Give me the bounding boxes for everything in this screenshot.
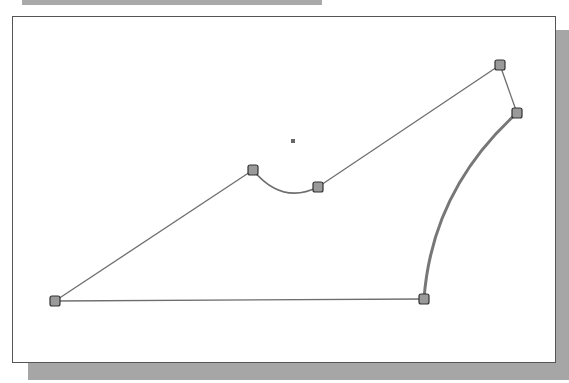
center-mark-icon xyxy=(291,139,295,143)
arc-p2-p3[interactable] xyxy=(253,170,318,193)
line-p1-p2[interactable] xyxy=(55,170,253,301)
vertex-p4[interactable] xyxy=(495,60,505,70)
line-p4-p5[interactable] xyxy=(500,65,517,113)
sketch-drawing[interactable] xyxy=(0,0,569,383)
vertex-p2[interactable] xyxy=(248,165,258,175)
line-p6-p1[interactable] xyxy=(55,299,424,301)
line-p3-p4[interactable] xyxy=(318,65,500,187)
arc-p5-p6[interactable] xyxy=(424,113,517,299)
vertex-p1[interactable] xyxy=(50,296,60,306)
vertex-p6[interactable] xyxy=(419,294,429,304)
vertex-p3[interactable] xyxy=(313,182,323,192)
vertex-p5[interactable] xyxy=(512,108,522,118)
